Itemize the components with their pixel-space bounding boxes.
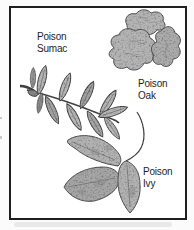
poison-oak-illustration [109,10,180,70]
illustration-page: Poison Sumac Poison Oak Poison Ivy [0,0,194,230]
poison-oak-label: Poison Oak [138,78,167,101]
poison-sumac-label: Poison Sumac [37,31,67,54]
poison-sumac-illustration [20,65,129,142]
plants-drawing [0,0,194,230]
poison-ivy-label: Poison Ivy [143,166,172,189]
poison-ivy-illustration [64,112,144,213]
